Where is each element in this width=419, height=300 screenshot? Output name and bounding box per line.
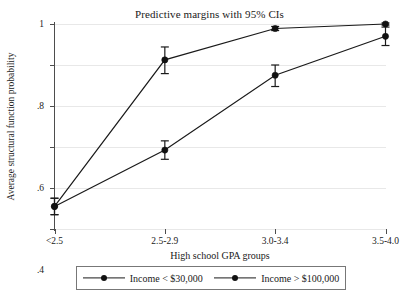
y-tick-label: 1: [39, 19, 44, 29]
y-tick-mark: 0: [50, 229, 54, 230]
data-point-marker: [272, 25, 278, 31]
x-tick-mark: [386, 229, 387, 234]
x-tick-mark: [55, 229, 56, 234]
data-point-marker: [162, 57, 168, 63]
legend-item-low-income[interactable]: Income < $30,000: [83, 273, 203, 284]
chart-legend: Income < $30,000 Income > $100,000: [76, 266, 346, 290]
y-axis-title: Average structural function probability: [6, 24, 18, 229]
plot-frame: 0.2.4.6.81 <2.52.5-2.93.0-3.43.5-4.0: [54, 24, 386, 229]
series-1: [51, 27, 390, 215]
x-axis-title: High school GPA groups: [54, 250, 386, 261]
series-line: [55, 24, 386, 206]
data-point-marker: [272, 72, 278, 78]
data-point-marker: [162, 147, 168, 153]
legend-item-high-income[interactable]: Income > $100,000: [214, 273, 339, 284]
data-point-marker: [382, 21, 388, 27]
x-tick-label: 3.5-4.0: [372, 236, 399, 246]
x-tick-label: <2.5: [46, 236, 63, 246]
y-tick-label: .8: [37, 101, 44, 111]
series-layer: [54, 24, 386, 229]
data-point-marker: [382, 33, 388, 39]
legend-marker-icon: [214, 273, 256, 283]
series-2: [51, 21, 390, 215]
legend-label: Income < $30,000: [130, 273, 203, 284]
y-tick-label: .6: [37, 183, 44, 193]
plot-area: 0.2.4.6.81 <2.52.5-2.93.0-3.43.5-4.0: [54, 24, 386, 229]
y-tick-label: .4: [37, 265, 44, 275]
chart-title: Predictive margins with 95% CIs: [0, 8, 419, 20]
legend-label: Income > $100,000: [261, 273, 339, 284]
series-line: [55, 36, 386, 206]
data-point-marker: [51, 203, 57, 209]
legend-marker-icon: [83, 273, 125, 283]
x-tick-label: 3.0-3.4: [262, 236, 289, 246]
x-tick-mark: [275, 229, 276, 234]
x-tick-label: 2.5-2.9: [151, 236, 178, 246]
x-tick-mark: [165, 229, 166, 234]
chart-figure: Predictive margins with 95% CIs Average …: [0, 0, 419, 300]
gridline: [55, 229, 386, 230]
